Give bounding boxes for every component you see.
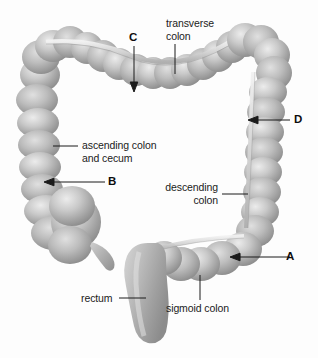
marker-label-d: D [294,113,302,125]
appendix-shape [90,242,115,271]
marker-label-a: A [286,250,294,262]
marker-label-c: C [129,31,137,43]
label-descending-colon: descending colon [130,181,218,206]
label-ascending-colon: ascending colon and cecum [82,139,156,164]
colon-anatomy-figure: transverse colon ascending colon and cec… [0,0,318,358]
label-transverse-colon: transverse colon [166,17,214,42]
marker-b-arrow [44,178,105,186]
label-sigmoid-colon: sigmoid colon [166,302,229,315]
label-rectum: rectum [81,292,113,305]
colon-illustration [0,0,318,358]
cecum-shape [48,186,101,264]
rectum-shape [124,243,168,343]
marker-label-b: B [108,175,116,187]
descending-colon-shape [236,77,287,247]
